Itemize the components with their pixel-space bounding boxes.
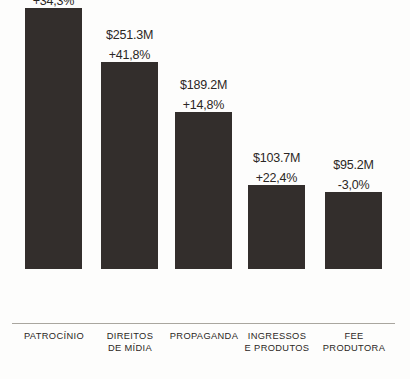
plot-area: $456.7M +34,3% $251.3M +41,8% $189.2M +1… (0, 0, 410, 324)
category-label-fee-produtora-line-2: PRODUTORA (299, 343, 409, 355)
bar-propaganda[interactable] (175, 112, 232, 269)
axis-baseline (12, 323, 395, 324)
bar-group-fee-produtora: $95.2M -3,0% (325, 192, 382, 269)
category-label-fee-produtora: FEE PRODUTORA (299, 331, 409, 354)
bar-label-propaganda: $189.2M +14,8% (144, 79, 264, 112)
bar-ingressos-e-produtos[interactable] (248, 185, 305, 269)
bar-delta-propaganda: +14,8% (144, 99, 264, 112)
bar-label-patrocinio: $456.7M +34,3% (0, 0, 114, 8)
bar-delta-direitos-de-midia: +41,8% (70, 49, 190, 62)
bar-value-propaganda: $189.2M (144, 79, 264, 92)
bar-group-ingressos-e-produtos: $103.7M +22,4% (248, 185, 305, 269)
bar-value-fee-produtora: $95.2M (294, 159, 410, 172)
bar-delta-fee-produtora: -3,0% (294, 179, 410, 192)
bar-group-propaganda: $189.2M +14,8% (175, 112, 232, 269)
bar-value-direitos-de-midia: $251.3M (70, 29, 190, 42)
bar-fee-produtora[interactable] (325, 192, 382, 269)
category-label-fee-produtora-line-1: FEE (299, 331, 409, 343)
bar-delta-patrocinio: +34,3% (0, 0, 114, 8)
bar-chart: $456.7M +34,3% $251.3M +41,8% $189.2M +1… (0, 0, 410, 379)
bar-label-fee-produtora: $95.2M -3,0% (294, 159, 410, 192)
category-label-direitos-de-midia-line-2: DE MÍDIA (75, 343, 185, 355)
bar-label-direitos-de-midia: $251.3M +41,8% (70, 29, 190, 62)
